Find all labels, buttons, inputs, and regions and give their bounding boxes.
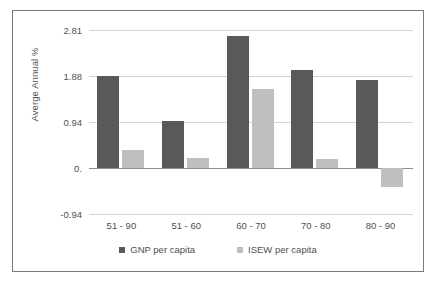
bar-isew xyxy=(187,158,209,168)
bar-gnp xyxy=(291,70,313,168)
bar-group: 51 - 90 xyxy=(89,30,154,214)
bar-isew xyxy=(381,168,403,187)
chart-frame: Averge Annual % 2.811.880.940.-0.94 51 -… xyxy=(12,10,424,272)
legend-item[interactable]: GNP per capita xyxy=(119,244,195,255)
bar-group: 51 - 60 xyxy=(154,30,219,214)
x-axis-tick-label: 70 - 80 xyxy=(283,220,348,231)
y-axis-tick-label: -0.94 xyxy=(60,209,82,220)
x-axis-tick-label: 80 - 90 xyxy=(348,220,413,231)
bar-group: 60 - 70 xyxy=(219,30,284,214)
bar-group: 80 - 90 xyxy=(348,30,413,214)
plot-area: 2.811.880.940.-0.94 51 - 9051 - 6060 - 7… xyxy=(89,30,413,214)
bar-group: 70 - 80 xyxy=(283,30,348,214)
y-axis-tick-label: 2.81 xyxy=(64,25,83,36)
gridline xyxy=(89,214,413,215)
y-axis-title: Averge Annual % xyxy=(29,20,40,150)
y-axis-tick-label: 0. xyxy=(74,162,82,173)
y-axis-tick-label: 0.94 xyxy=(64,116,83,127)
bar-isew xyxy=(122,150,144,168)
bar-isew xyxy=(252,89,274,168)
bar-gnp xyxy=(356,80,378,168)
bar-gnp xyxy=(97,76,119,168)
y-axis-tick-label: 1.88 xyxy=(64,70,83,81)
x-axis-tick-label: 51 - 60 xyxy=(154,220,219,231)
legend-label: GNP per capita xyxy=(130,244,195,255)
legend-swatch-icon xyxy=(237,247,243,253)
chart-legend: GNP per capitaISEW per capita xyxy=(13,244,423,255)
legend-label: ISEW per capita xyxy=(248,244,317,255)
x-axis-tick-label: 51 - 90 xyxy=(89,220,154,231)
legend-swatch-icon xyxy=(119,247,125,253)
legend-item[interactable]: ISEW per capita xyxy=(237,244,317,255)
bar-gnp xyxy=(162,121,184,168)
x-axis-tick-label: 60 - 70 xyxy=(219,220,284,231)
bar-isew xyxy=(316,159,338,168)
bar-gnp xyxy=(227,36,249,167)
